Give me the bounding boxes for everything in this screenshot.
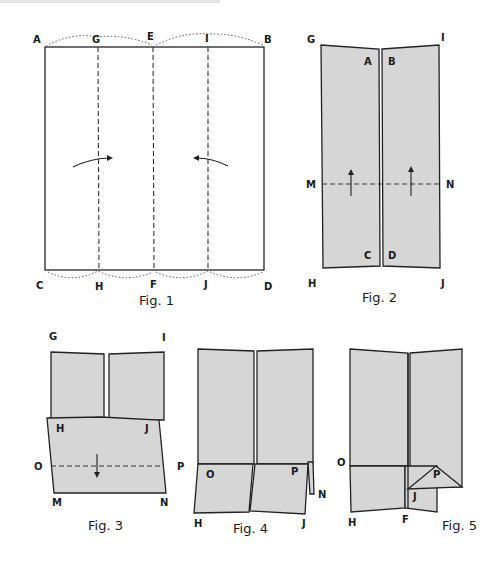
right-panel	[382, 45, 440, 268]
label-o: O	[206, 469, 215, 480]
label-j: J	[144, 423, 149, 434]
fold-arrow-left-icon	[193, 155, 228, 166]
label-i: I	[162, 332, 166, 343]
caption-fig-4: Fig. 4	[233, 521, 268, 536]
label-f: F	[402, 514, 409, 525]
caption-fig-5: Fig. 5	[442, 518, 477, 533]
label-n: N	[318, 489, 326, 500]
label-d: D	[264, 281, 272, 292]
upper-right-panel	[257, 349, 313, 464]
label-p: P	[177, 461, 184, 472]
left-panel	[321, 45, 380, 268]
label-m: M	[306, 179, 316, 190]
lower-left-flap	[194, 464, 253, 513]
label-j: J	[412, 491, 417, 502]
label-g: G	[92, 34, 100, 45]
caption-fig-2: Fig. 2	[362, 290, 397, 305]
caption-fig-1: Fig. 1	[139, 293, 174, 308]
label-b: B	[388, 56, 396, 67]
label-o: O	[337, 457, 346, 468]
lower-right-flap	[250, 464, 308, 514]
lower-left-flap	[350, 466, 405, 512]
figure-5: O P J H F Fig. 5	[337, 349, 477, 533]
label-h: H	[308, 278, 316, 289]
label-c: C	[36, 280, 43, 291]
label-g: G	[49, 331, 57, 342]
label-j: J	[301, 518, 306, 529]
flap-edge-n	[308, 462, 314, 494]
label-b: B	[264, 34, 272, 45]
label-h: H	[348, 517, 356, 528]
upper-left-panel	[51, 352, 104, 420]
label-a: A	[364, 56, 372, 67]
figure-3: G I H J O P M N Fig. 3	[34, 331, 184, 533]
arc-bottom-right	[156, 271, 263, 278]
caption-fig-3: Fig. 3	[88, 518, 123, 533]
label-h: H	[56, 423, 64, 434]
figure-4: O P N H J Fig. 4	[194, 349, 326, 536]
paper-square	[45, 47, 264, 270]
label-n: N	[446, 179, 454, 190]
label-n: N	[160, 497, 168, 508]
upper-left-panel	[350, 349, 408, 466]
label-j: J	[440, 278, 445, 289]
upper-left-panel	[198, 349, 254, 464]
label-c: C	[364, 250, 371, 261]
fold-line-ef	[153, 47, 154, 270]
label-p: P	[433, 469, 440, 480]
figure-2: G I A B M N C D H J Fig. 2	[306, 32, 454, 305]
arc-top-right	[156, 34, 263, 45]
arc-bottom-left	[48, 271, 153, 278]
fold-arrow-right-icon	[73, 155, 113, 167]
label-h: H	[95, 281, 103, 292]
label-i: I	[205, 33, 209, 44]
label-d: D	[388, 250, 396, 261]
folding-diagram: A G E I B C H F J D Fig. 1 G I A B M N C…	[0, 0, 504, 561]
label-p: P	[291, 466, 298, 477]
label-h: H	[194, 518, 202, 529]
label-i: I	[441, 32, 445, 43]
label-g: G	[307, 34, 315, 45]
upper-right-panel	[109, 352, 164, 420]
label-o: O	[34, 461, 43, 472]
label-f: F	[150, 279, 157, 290]
label-e: E	[147, 31, 154, 42]
label-m: M	[52, 497, 62, 508]
label-a: A	[33, 34, 41, 45]
figure-1: A G E I B C H F J D Fig. 1	[33, 31, 272, 308]
label-j: J	[203, 279, 208, 290]
